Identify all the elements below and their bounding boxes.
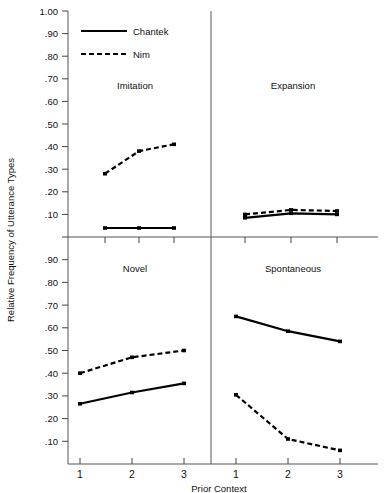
data-point (335, 213, 339, 217)
y-tick-label-bottom-0_70: .70 (45, 300, 58, 311)
panel-label-imitation: Imitation (117, 80, 153, 91)
y-tick-label-top-0_60: .60 (45, 96, 58, 107)
y-tick-label-bottom-0_30: .30 (45, 390, 58, 401)
y-tick-label-bottom-0_50: .50 (45, 345, 58, 356)
panel-label-expansion: Expansion (271, 80, 315, 91)
y-tick-label-top-0_50: .50 (45, 119, 58, 130)
y-tick-label-bottom-0_60: .60 (45, 322, 58, 333)
data-point (234, 315, 238, 319)
y-tick-label-top-0_10: .10 (45, 209, 58, 220)
data-point (78, 371, 82, 375)
data-point (243, 213, 247, 217)
y-tick-label-top-1_00: 1.00 (40, 6, 59, 17)
x-axis-title: Prior Context (191, 483, 247, 493)
y-tick-label-top-0_90: .90 (45, 28, 58, 39)
data-point (289, 208, 293, 212)
data-point (137, 149, 141, 153)
data-point (234, 393, 238, 397)
data-point (130, 391, 134, 395)
data-point (338, 449, 342, 453)
x-tick-label-left-1: 1 (77, 468, 83, 480)
x-tick-label-right-2: 2 (285, 468, 291, 480)
figure-container: 1.00 .90 .80 .70 .60 .50 .40 .30 .20 .10… (0, 0, 386, 493)
y-tick-label-bottom-0_10: .10 (45, 436, 58, 447)
data-point (243, 216, 247, 220)
panel-label-novel: Novel (123, 263, 147, 274)
x-tick-label-left-2: 2 (129, 468, 135, 480)
y-tick-label-bottom-0_20: .20 (45, 413, 58, 424)
data-point (130, 356, 134, 360)
data-point (103, 172, 107, 176)
legend-label-chantek: Chantek (133, 26, 169, 37)
x-tick-label-right-1: 1 (233, 468, 239, 480)
y-axis-title: Relative Frequency of Utterance Types (5, 158, 16, 322)
x-tick-label-left-3: 3 (181, 468, 187, 480)
y-tick-label-top-0_30: .30 (45, 164, 58, 175)
data-point (137, 226, 141, 230)
x-tick-label-right-3: 3 (337, 468, 343, 480)
data-point (182, 349, 186, 353)
data-point (335, 209, 339, 213)
legend-label-nim: Nim (133, 49, 150, 60)
data-point (103, 226, 107, 230)
y-tick-label-bottom-0_80: .80 (45, 277, 58, 288)
data-point (289, 212, 293, 216)
y-tick-label-bottom-0_90: .90 (45, 254, 58, 265)
data-point (172, 143, 176, 147)
data-point (182, 382, 186, 386)
data-point (172, 226, 176, 230)
y-tick-label-top-0_20: .20 (45, 186, 58, 197)
line-chart: 1.00 .90 .80 .70 .60 .50 .40 .30 .20 .10… (0, 0, 386, 493)
data-point (78, 402, 82, 406)
y-tick-label-top-0_80: .80 (45, 51, 58, 62)
y-tick-label-bottom-0_40: .40 (45, 368, 58, 379)
data-point (286, 437, 290, 441)
data-point (286, 329, 290, 333)
y-tick-label-top-0_70: .70 (45, 73, 58, 84)
y-tick-label-top-0_40: .40 (45, 141, 58, 152)
panel-label-spontaneous: Spontaneous (265, 263, 321, 274)
data-point (338, 340, 342, 344)
